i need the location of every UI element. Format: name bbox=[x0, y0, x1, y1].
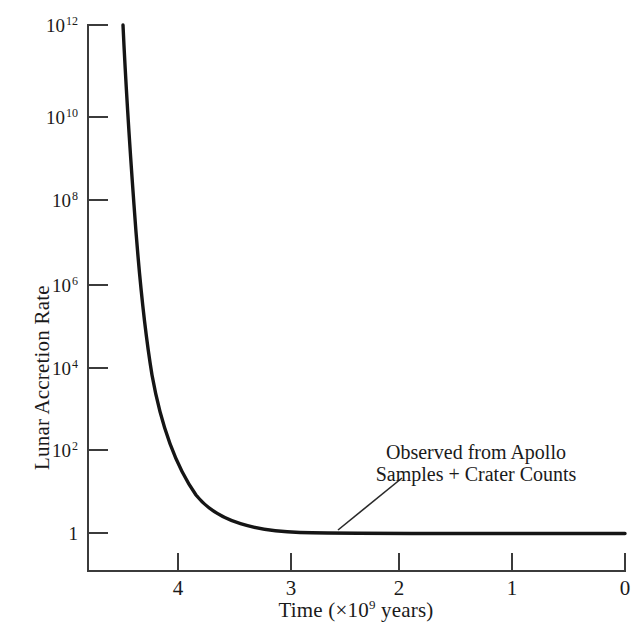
y-axis-title: Lunar Accretion Rate bbox=[32, 285, 53, 470]
ytick-exponent: 10 bbox=[66, 105, 78, 119]
x-axis-title: Time (×109 years) bbox=[278, 600, 433, 621]
annotation-leader-line bbox=[338, 478, 402, 530]
ytick-exponent: 12 bbox=[66, 13, 78, 27]
ytick-label-1e12: 1012 bbox=[0, 16, 78, 35]
apollo-annotation-line2: Samples + Crater Counts bbox=[376, 464, 577, 486]
lunar-accretion-rate-figure: 1012 1010 108 106 104 102 1 4 3 2 1 0 Lu… bbox=[0, 0, 642, 634]
ytick-exponent: 6 bbox=[72, 273, 78, 287]
xtick-label-4: 4 bbox=[173, 578, 184, 599]
ytick-exponent: 4 bbox=[72, 356, 78, 370]
plot-canvas bbox=[0, 0, 642, 634]
x-axis-title-text: Time ( bbox=[278, 598, 335, 622]
ytick-label-1e8: 108 bbox=[0, 191, 78, 210]
ytick-exponent: 8 bbox=[72, 188, 78, 202]
y-tick-marks bbox=[88, 25, 108, 533]
ytick-label-1e10: 1010 bbox=[0, 108, 78, 127]
xtick-label-1: 1 bbox=[507, 578, 518, 599]
x-axis-title-tail: years) bbox=[376, 598, 434, 622]
apollo-annotation-line1: Observed from Apollo bbox=[376, 442, 577, 464]
xtick-label-0: 0 bbox=[620, 578, 631, 599]
xtick-label-2: 2 bbox=[394, 578, 405, 599]
ytick-exponent: 2 bbox=[72, 438, 78, 452]
xtick-label-3: 3 bbox=[286, 578, 297, 599]
ytick-label-1: 1 bbox=[0, 524, 78, 543]
apollo-annotation: Observed from Apollo Samples + Crater Co… bbox=[376, 442, 577, 485]
x-tick-marks bbox=[178, 553, 625, 571]
x-axis-title-mult: ×10 bbox=[335, 598, 368, 622]
